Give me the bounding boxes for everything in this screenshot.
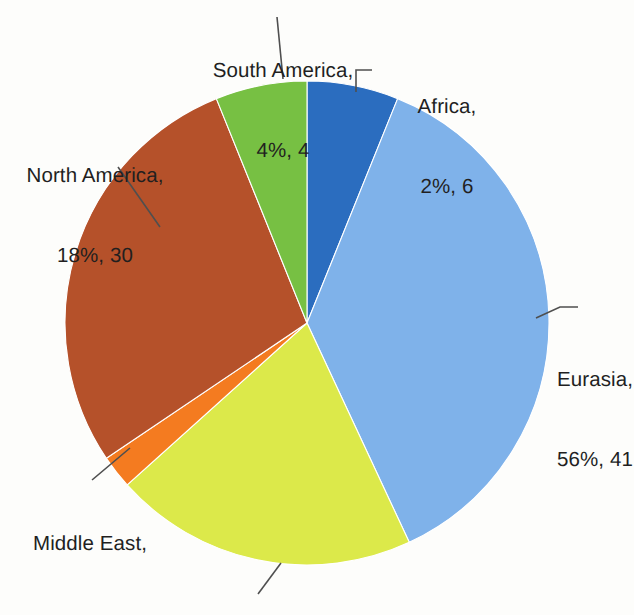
slice-label-south-america: South America, 4%, 4 <box>178 5 388 218</box>
slice-label-africa-value: 2%, 6 <box>362 174 532 201</box>
slice-label-africa: Africa, 2%, 6 <box>362 41 532 254</box>
pie-chart: South America, 4%, 4 Africa, 2%, 6 Euras… <box>0 0 634 615</box>
slice-label-south-america-name: South America, <box>178 58 388 85</box>
slice-label-eurasia-name: Eurasia, <box>557 367 634 394</box>
slice-label-north-america-value: 18%, 30 <box>0 243 190 270</box>
slice-label-eurasia: Eurasia, 56%, 41 <box>557 314 634 527</box>
slice-label-middle-east-name: Middle East, <box>0 531 180 558</box>
slice-label-middle-east: Middle East, 17%, 2 <box>0 478 180 615</box>
slice-label-eurasia-value: 56%, 41 <box>557 447 634 474</box>
slice-label-middle-east-value: 17%, 2 <box>0 611 180 615</box>
slice-label-africa-name: Africa, <box>362 94 532 121</box>
slice-label-north-america: North America, 18%, 30 <box>0 110 190 323</box>
slice-label-south-america-value: 4%, 4 <box>178 138 388 165</box>
slice-label-north-america-name: North America, <box>0 163 190 190</box>
